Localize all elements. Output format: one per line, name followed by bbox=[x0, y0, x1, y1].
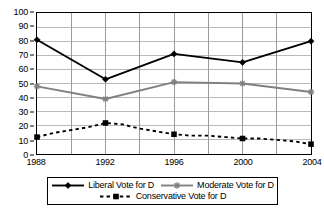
series-line bbox=[37, 40, 311, 79]
y-axis-tick-mark bbox=[30, 83, 34, 84]
y-axis-tick-label: 10 bbox=[18, 136, 28, 146]
series-liberal-vote-for-d bbox=[34, 37, 314, 83]
data-point-marker bbox=[171, 51, 177, 57]
y-axis-tick-label: 70 bbox=[18, 50, 28, 60]
data-point-marker bbox=[308, 141, 314, 147]
legend-row: Conservative Vote for D bbox=[51, 191, 274, 202]
y-axis-tick-label: 30 bbox=[18, 107, 28, 117]
x-axis-tick-label: 2000 bbox=[233, 157, 252, 167]
plot-area bbox=[36, 12, 312, 155]
x-axis-tick-label: 2004 bbox=[302, 157, 321, 167]
legend-item-label: Conservative Vote for D bbox=[136, 191, 226, 202]
y-axis-tick-mark bbox=[30, 12, 34, 13]
y-axis-tick-label: 60 bbox=[18, 64, 28, 74]
y-axis-tick-mark bbox=[30, 54, 34, 55]
data-point-marker bbox=[102, 96, 108, 102]
data-point-marker bbox=[171, 79, 177, 85]
series-conservative-vote-for-d bbox=[34, 120, 314, 147]
legend-item-conservative-vote-for-d[interactable]: Conservative Vote for D bbox=[99, 191, 226, 202]
legend-item-label: Moderate Vote for D bbox=[197, 180, 274, 191]
x-axis-tick-label: 1988 bbox=[26, 157, 45, 167]
chart-page: 1009080706050403020100 19881992199620002… bbox=[0, 0, 324, 216]
y-axis-tick-mark bbox=[30, 40, 34, 41]
data-point-marker bbox=[239, 59, 245, 65]
y-axis-tick-label: 20 bbox=[18, 121, 28, 131]
data-point-marker bbox=[308, 38, 314, 44]
y-axis-tick-mark bbox=[30, 126, 34, 127]
y-axis-tick-mark bbox=[30, 140, 34, 141]
chart-legend: Liberal Vote for DModerate Vote for DCon… bbox=[47, 177, 278, 205]
y-axis-tick-label: 80 bbox=[18, 36, 28, 46]
data-point-marker bbox=[34, 83, 40, 89]
series-moderate-vote-for-d bbox=[34, 79, 314, 102]
data-point-marker bbox=[240, 136, 246, 142]
legend-swatch-diamond-icon bbox=[51, 180, 85, 191]
data-point-marker bbox=[34, 134, 40, 140]
legend-row: Liberal Vote for DModerate Vote for D bbox=[51, 180, 274, 191]
x-axis-tick-label: 1996 bbox=[164, 157, 183, 167]
y-axis-tick-mark bbox=[30, 69, 34, 70]
data-point-marker bbox=[103, 120, 109, 126]
y-axis-tick-mark bbox=[30, 26, 34, 27]
data-point-marker bbox=[308, 89, 314, 95]
data-point-marker bbox=[239, 80, 245, 86]
data-series-layer bbox=[37, 13, 311, 154]
y-axis-tick-mark bbox=[30, 112, 34, 113]
y-axis-tick-mark bbox=[30, 155, 34, 156]
y-axis-tick-label: 40 bbox=[18, 93, 28, 103]
legend-swatch-asterisk-icon bbox=[160, 180, 194, 191]
y-axis-tick-label: 50 bbox=[18, 79, 28, 89]
y-axis-tick-label: 90 bbox=[18, 21, 28, 31]
y-axis: 1009080706050403020100 bbox=[0, 12, 34, 155]
legend-swatch-square-icon bbox=[99, 191, 133, 202]
y-axis-tick-mark bbox=[30, 97, 34, 98]
y-axis-tick-label: 100 bbox=[14, 7, 28, 17]
legend-item-moderate-vote-for-d[interactable]: Moderate Vote for D bbox=[160, 180, 274, 191]
x-axis-tick-label: 1992 bbox=[95, 157, 114, 167]
data-point-marker bbox=[171, 131, 177, 137]
legend-item-label: Liberal Vote for D bbox=[88, 180, 154, 191]
legend-item-liberal-vote-for-d[interactable]: Liberal Vote for D bbox=[51, 180, 154, 191]
x-axis: 19881992199620002004 bbox=[36, 157, 312, 171]
